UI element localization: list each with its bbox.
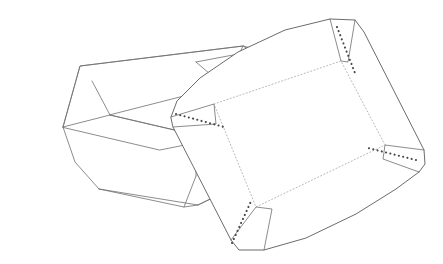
drawing-canvas <box>0 0 443 264</box>
technical-drawing-svg <box>0 0 443 264</box>
